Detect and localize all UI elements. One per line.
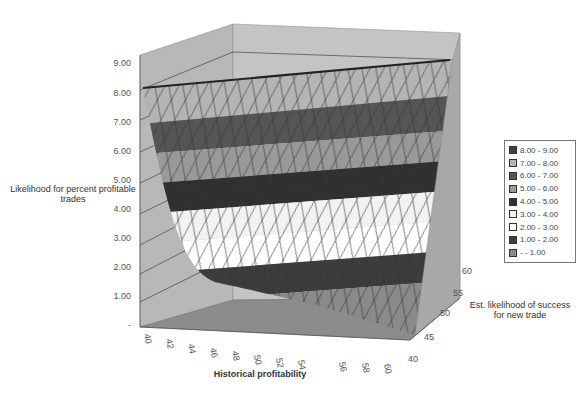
x-tick: 50	[252, 354, 264, 366]
y-tick: 4.00	[91, 204, 131, 214]
y-tick: 6.00	[91, 146, 131, 156]
x-tick: 44	[186, 343, 198, 355]
legend-swatch-icon	[509, 249, 517, 257]
z-tick: 40	[408, 354, 418, 364]
y-tick: 1.00	[91, 291, 131, 301]
y-axis-title: Likelihood for percent profitable trades	[8, 184, 138, 204]
legend-item: 4.00 - 5.00	[509, 195, 573, 208]
z-tick: 45	[424, 332, 434, 342]
legend-item: 2.00 - 3.00	[509, 221, 573, 234]
legend-item: 6.00 - 7.00	[509, 170, 573, 183]
z-tick: 55	[453, 288, 463, 298]
x-tick: 60	[382, 363, 394, 375]
legend-swatch-icon	[509, 185, 517, 193]
z-axis-title: Est. likelihood of success for new trade	[465, 300, 575, 320]
legend-item: - - 1.00	[509, 246, 573, 259]
legend-swatch-icon	[509, 172, 517, 180]
x-tick: 52	[274, 357, 286, 369]
legend-swatch-icon	[509, 159, 517, 167]
legend-swatch-icon	[509, 198, 517, 206]
x-tick: 58	[360, 362, 372, 374]
x-tick: 40	[142, 333, 154, 345]
x-tick: 42	[164, 338, 176, 350]
y-tick: 2.00	[91, 262, 131, 272]
y-tick: 8.00	[91, 88, 131, 98]
legend-item: 5.00 - 6.00	[509, 182, 573, 195]
legend: 8.00 - 9.00 7.00 - 8.00 6.00 - 7.00 5.00…	[504, 140, 576, 263]
legend-item: 7.00 - 8.00	[509, 157, 573, 170]
x-tick: 46	[208, 347, 220, 359]
y-tick: 3.00	[91, 233, 131, 243]
z-tick: 60	[462, 266, 472, 276]
legend-item: 3.00 - 4.00	[509, 208, 573, 221]
x-tick: 56	[337, 361, 349, 373]
legend-swatch-icon	[509, 236, 517, 244]
y-tick: 7.00	[91, 117, 131, 127]
legend-swatch-icon	[509, 210, 517, 218]
legend-item: 8.00 - 9.00	[509, 144, 573, 157]
legend-swatch-icon	[509, 223, 517, 231]
z-tick: 50	[440, 308, 450, 318]
x-axis-title: Historical profitability	[185, 369, 335, 379]
y-tick: -	[91, 320, 131, 330]
y-tick: 9.00	[91, 58, 131, 68]
x-tick: 48	[230, 350, 242, 362]
legend-swatch-icon	[509, 146, 517, 154]
legend-item: 1.00 - 2.00	[509, 234, 573, 247]
